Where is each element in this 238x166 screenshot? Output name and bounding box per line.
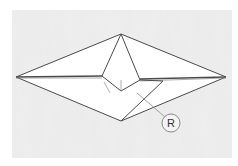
origami-diagram: R (0, 0, 238, 166)
diagram-canvas: R (0, 0, 238, 166)
left-edge-line (16, 76, 102, 77)
label-r: R (167, 117, 175, 129)
